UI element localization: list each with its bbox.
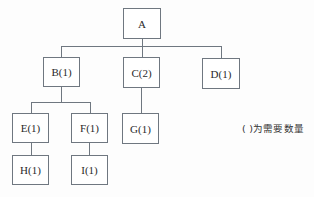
connector-to-c [142, 46, 143, 57]
node-h: H(1) [12, 155, 49, 185]
connector-f-to-i [89, 143, 90, 155]
node-c-label: C(2) [131, 67, 151, 79]
connector-to-f [90, 102, 91, 113]
node-g: G(1) [122, 113, 159, 144]
node-a: A [123, 8, 161, 39]
connector-b-horizontal [31, 102, 91, 103]
connector-a-down [142, 39, 143, 46]
node-d: D(1) [202, 58, 240, 89]
node-e: E(1) [12, 113, 49, 143]
connector-to-e [31, 102, 32, 113]
node-c: C(2) [123, 57, 160, 88]
node-h-label: H(1) [20, 164, 41, 176]
connector-b-down [61, 87, 62, 102]
node-a-label: A [138, 18, 146, 30]
quantity-note: ( )为需要数量 [242, 121, 304, 135]
connector-c-to-g [141, 88, 142, 113]
connector-to-b [61, 46, 62, 57]
node-f: F(1) [71, 113, 108, 143]
node-i-label: I(1) [81, 164, 98, 176]
tree-diagram: A B(1) C(2) D(1) E(1) F(1) G(1) H(1) I(1… [0, 0, 314, 197]
node-f-label: F(1) [80, 122, 99, 134]
node-b-label: B(1) [51, 66, 71, 78]
node-e-label: E(1) [21, 122, 41, 134]
node-i: I(1) [71, 155, 108, 185]
node-g-label: G(1) [130, 123, 151, 135]
connector-e-to-h [31, 143, 32, 155]
node-b: B(1) [43, 57, 80, 87]
connector-to-d [221, 46, 222, 58]
node-d-label: D(1) [211, 68, 232, 80]
